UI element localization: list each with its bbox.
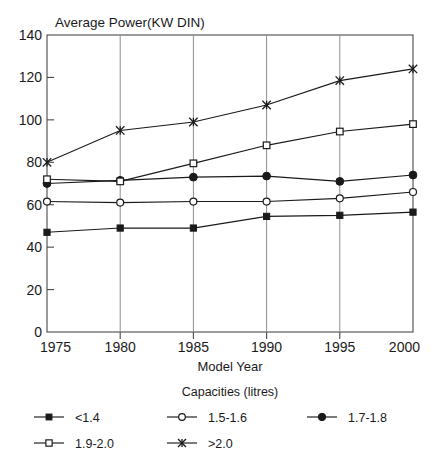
- data-series: [44, 121, 417, 185]
- legend-item-label: <1.4: [75, 411, 100, 425]
- plot-area-frame: [47, 35, 413, 332]
- chart-title: Average Power(KW DIN): [55, 15, 205, 30]
- data-point-marker-filled-circle: [318, 413, 325, 420]
- chart-container: Average Power(KW DIN) 020406080100120140…: [0, 0, 440, 468]
- data-series-layer: [43, 65, 417, 236]
- data-point-marker-filled-square: [410, 209, 416, 215]
- x-axis-title: Model Year: [197, 359, 263, 374]
- data-point-marker-open-square: [410, 121, 417, 128]
- x-tick-label: 1975: [40, 339, 71, 355]
- data-point-marker-open-square: [117, 178, 124, 185]
- data-point-marker-open-square: [44, 176, 51, 183]
- data-point-marker-open-circle: [410, 188, 417, 195]
- data-point-marker-open-square: [190, 160, 197, 167]
- data-point-marker-open-circle: [190, 198, 197, 205]
- y-axis-tick-labels: 020406080100120140: [19, 27, 43, 340]
- y-tick-label: 80: [26, 154, 42, 170]
- data-point-marker-filled-circle: [190, 173, 198, 181]
- y-tick-label: 20: [26, 282, 42, 298]
- data-point-marker-open-circle: [336, 195, 343, 202]
- data-series: [44, 209, 416, 235]
- data-series: [44, 188, 417, 206]
- y-tick-label: 100: [19, 112, 43, 128]
- legend-item-label: >2.0: [208, 437, 233, 451]
- legend-item-label: 1.9-2.0: [75, 437, 114, 451]
- data-point-marker-filled-square: [264, 213, 270, 219]
- legend-title: Capacities (litres): [182, 385, 279, 399]
- data-point-marker-filled-square: [190, 225, 196, 231]
- series-polyline: [47, 212, 413, 232]
- series-polyline: [47, 192, 413, 203]
- legend-item[interactable]: 1.7-1.8: [307, 411, 387, 425]
- vertical-gridlines: [120, 35, 340, 332]
- x-axis-tickmarks: [120, 332, 340, 339]
- series-polyline: [47, 124, 413, 181]
- data-point-marker-filled-square: [117, 225, 123, 231]
- data-point-marker-open-circle: [179, 414, 186, 421]
- data-point-marker-open-circle: [117, 199, 124, 206]
- legend-item[interactable]: <1.4: [34, 411, 100, 425]
- data-point-marker-filled-square: [337, 212, 343, 218]
- data-point-marker-filled-circle: [263, 172, 271, 180]
- data-point-marker-open-circle: [44, 198, 51, 205]
- legend-item[interactable]: 1.5-1.6: [167, 411, 247, 425]
- chart-legend: <1.41.5-1.61.7-1.81.9-2.0>2.0: [34, 411, 387, 451]
- series-polyline: [47, 175, 413, 183]
- data-point-marker-open-square: [337, 128, 344, 135]
- y-tick-label: 40: [26, 239, 42, 255]
- legend-item[interactable]: >2.0: [167, 437, 233, 451]
- x-tick-label: 1985: [178, 339, 209, 355]
- y-tick-label: 120: [19, 69, 43, 85]
- data-point-marker-filled-circle: [336, 177, 344, 185]
- data-point-marker-open-square: [46, 440, 52, 446]
- data-series: [43, 65, 417, 167]
- x-axis-tick-labels: 197519801985199019952000: [40, 339, 420, 355]
- data-series: [43, 171, 417, 187]
- legend-item-label: 1.7-1.8: [348, 411, 387, 425]
- legend-item-label: 1.5-1.6: [208, 411, 247, 425]
- series-polyline: [47, 69, 413, 162]
- y-tick-label: 60: [26, 197, 42, 213]
- y-tick-label: 140: [19, 27, 43, 43]
- data-point-marker-filled-square: [44, 229, 50, 235]
- x-tick-label: 1980: [105, 339, 136, 355]
- data-point-marker-filled-circle: [409, 171, 417, 179]
- data-point-marker-cross: [262, 101, 270, 109]
- y-tick-label: 0: [34, 324, 42, 340]
- legend-item[interactable]: 1.9-2.0: [34, 437, 114, 451]
- data-point-marker-filled-square: [46, 414, 52, 420]
- data-point-marker-open-square: [263, 142, 270, 149]
- x-tick-label: 1990: [251, 339, 282, 355]
- data-point-marker-open-circle: [263, 198, 270, 205]
- x-tick-label: 1995: [324, 339, 355, 355]
- average-power-line-chart: Average Power(KW DIN) 020406080100120140…: [0, 0, 440, 468]
- x-tick-label: 2000: [389, 339, 420, 355]
